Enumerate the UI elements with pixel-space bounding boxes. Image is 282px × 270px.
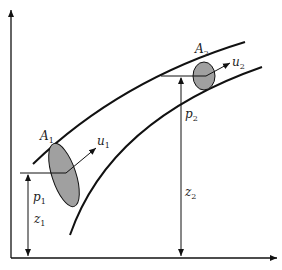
label-u2: u2 [232, 55, 245, 71]
bernoulli-pipe-diagram: A1 u1 p1 z1 A2 u2 p2 z2 [0, 0, 282, 270]
label-a2: A2 [194, 42, 209, 58]
pipe-lower-wall [70, 67, 262, 235]
label-u1: u1 [97, 134, 110, 150]
label-z2: z2 [184, 185, 196, 201]
section-1: A1 u1 p1 z1 [20, 129, 110, 256]
label-a1: A1 [39, 129, 54, 145]
cross-section-a1 [42, 140, 85, 210]
label-z1: z1 [33, 212, 45, 228]
section-2: A2 u2 p2 z2 [161, 42, 245, 256]
label-p1: p1 [33, 190, 46, 206]
axes [11, 10, 277, 258]
pipe [33, 42, 262, 235]
label-p2: p2 [185, 107, 198, 123]
pipe-upper-wall [33, 42, 245, 164]
